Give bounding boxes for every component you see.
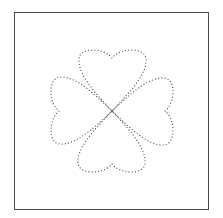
four-leaf-clover — [51, 50, 173, 172]
left-heart-leaf — [51, 77, 112, 144]
clover-drawing — [0, 0, 223, 218]
bottom-heart-leaf — [78, 111, 145, 172]
right-heart-leaf — [112, 78, 173, 145]
top-heart-leaf — [79, 50, 146, 111]
